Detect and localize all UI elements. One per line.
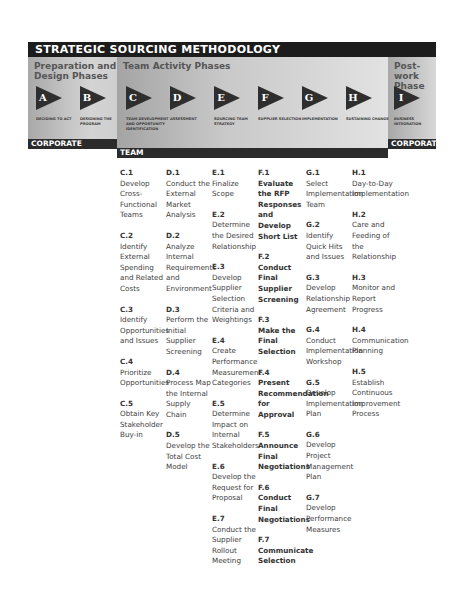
task-g2: G.2Identify Quick Hits and Issues: [306, 220, 352, 262]
phase-label-h: Sustaining Change: [346, 117, 390, 122]
title-bar: STRATEGIC SOURCING METHODOLOGY: [28, 42, 436, 57]
phase-label-f: Supplier Selection: [258, 117, 302, 122]
phase-label-g: Implementation: [302, 117, 346, 122]
task-c5: C.5Obtain Key Stakeholder Buy-in: [120, 399, 166, 441]
task-f7: F.7Communicate Selection: [258, 535, 304, 567]
task-c2: C.2Identify External Spending and Relate…: [120, 231, 166, 295]
task-h5: H.5Establish Continuous Improvement Proc…: [352, 367, 398, 420]
task-h2: H.2Care and Feeding of the Relationship: [352, 210, 398, 263]
column-g: G.1Select Implementation Team G.2Identif…: [306, 168, 352, 545]
task-c1: C.1Develop Cross-Functional Teams: [120, 168, 166, 221]
task-g6: G.6Develop Project Management Plan: [306, 430, 352, 483]
task-e1: E.1Finalize Scope: [212, 168, 258, 200]
task-f3: F.3Make the Final Selection: [258, 315, 304, 357]
task-d5: D.5Develop the Total Cost Model: [166, 430, 212, 472]
team-footer: TEAM: [117, 148, 388, 158]
column-d: D.1Conduct the External Market Analysis …: [166, 168, 212, 483]
phase-letter-e: E: [215, 92, 227, 103]
task-c3: C.3Identify Opportunities and Issues: [120, 305, 166, 347]
task-e2: E.2Determine the Desired Relationship: [212, 210, 258, 252]
column-f: F.1Evaluate the RFP Responses and Develo…: [258, 168, 304, 577]
task-d2: D.2Analyze Internal Requirements and Env…: [166, 231, 212, 295]
task-d4: D.4Process Map the Internal Supply Chain: [166, 368, 212, 421]
column-e: E.1Finalize Scope E.2Determine the Desir…: [212, 168, 258, 577]
phase-letter-a: A: [37, 92, 49, 103]
phase-label-d: Assessment: [170, 117, 214, 122]
task-d1: D.1Conduct the External Market Analysis: [166, 168, 212, 221]
phase-label-e: Sourcing Team Strategy: [214, 117, 258, 127]
task-g5: G.5Develop Implementation Plan: [306, 378, 352, 420]
task-g1: G.1Select Implementation Team: [306, 168, 352, 210]
task-f1: F.1Evaluate the RFP Responses and Develo…: [258, 168, 304, 242]
task-f5: F.5Announce Final Negotiations: [258, 430, 304, 472]
task-g7: G.7Develop Performance Measures: [306, 493, 352, 535]
column-c: C.1Develop Cross-Functional Teams C.2Ide…: [120, 168, 166, 451]
prep-panel-title: Preparation and Design Phases: [34, 61, 116, 81]
phase-letter-b: B: [81, 92, 93, 103]
phase-label-c: Team Development and Opportunity Identif…: [126, 117, 170, 132]
phase-label-b: Designing the Program: [80, 117, 124, 127]
task-d3: D.3Perform the Initial Supplier Screenin…: [166, 305, 212, 358]
task-g4: G.4Conduct Implementation Workshop: [306, 325, 352, 367]
task-c4: C.4Prioritize Opportunities: [120, 357, 166, 389]
phase-letter-d: D: [171, 92, 183, 103]
task-e4: E.4Create Performance Measurement Catego…: [212, 336, 258, 389]
task-e5: E.5Determine Impact on Internal Stakehol…: [212, 399, 258, 452]
task-f4: F.4Present Recommendation for Approval: [258, 368, 304, 421]
phase-letter-h: H: [347, 92, 359, 103]
task-e6: E.6Develop the Request for Proposal: [212, 462, 258, 504]
phase-letter-f: F: [259, 92, 271, 103]
task-e3: E.3Develop Supplier Selection Criteria a…: [212, 262, 258, 326]
column-h: H.1Day-to-Day Implementation H.2Care and…: [352, 168, 398, 430]
team-panel-title: Team Activity Phases: [123, 61, 230, 71]
task-h4: H.4Communication Planning: [352, 325, 398, 357]
diagram-title: STRATEGIC SOURCING METHODOLOGY: [35, 43, 280, 56]
task-h3: H.3Monitor and Report Progress: [352, 273, 398, 315]
corporate-footer-left: CORPORATE: [28, 139, 117, 149]
task-h1: H.1Day-to-Day Implementation: [352, 168, 398, 200]
phase-letter-c: C: [127, 92, 139, 103]
phase-letter-i: I: [395, 92, 407, 103]
corporate-footer-right: CORPORATE: [388, 139, 436, 149]
phase-label-i: Business Integration: [394, 117, 434, 127]
task-f6: F.6Conduct Final Negotiations: [258, 483, 304, 525]
task-f2: F.2Conduct Final Supplier Screening: [258, 252, 304, 305]
phase-letter-g: G: [303, 92, 315, 103]
task-g3: G.3Develop Relationship Agreement: [306, 273, 352, 315]
task-e7: E.7Conduct the Supplier Rollout Meeting: [212, 514, 258, 567]
phase-label-a: Deciding to Act: [36, 117, 80, 122]
